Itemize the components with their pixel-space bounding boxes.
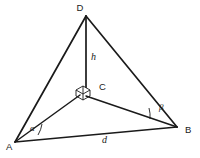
vertex-label-B: B [185,124,191,135]
segment-label-base: d [102,134,108,145]
vertex-label-C: C [99,81,106,92]
angle-label-alpha: α [30,123,35,133]
vertex-label-D: D [77,2,84,13]
edge-A-B-base [15,127,177,142]
angle-label-beta: β [158,102,164,112]
geometry-diagram: D C A B h d α β [0,0,200,158]
edge-A-D [15,16,86,142]
right-angle-cube-icon [76,86,90,100]
segment-label-height: h [91,51,96,62]
edge-A-C [15,95,80,142]
figure-canvas: D C A B h d α β [0,0,200,158]
vertex-label-A: A [6,141,13,152]
